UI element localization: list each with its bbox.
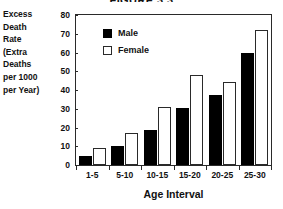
legend: Male Female: [103, 26, 149, 60]
bar-group: [176, 15, 203, 165]
y-axis-label-line: Rate: [3, 33, 51, 46]
y-axis-tick-label: 20: [50, 123, 70, 133]
y-axis-tick-label: 50: [50, 66, 70, 76]
bar-female-20-25[interactable]: [223, 82, 236, 165]
bar-group: [209, 15, 236, 165]
y-axis-tick-label: 80: [50, 10, 70, 20]
x-axis-tick-mark: [109, 166, 110, 170]
y-axis-label-line: Death: [3, 21, 51, 34]
bar-male-20-25[interactable]: [209, 95, 222, 165]
y-axis-tick-label: 60: [50, 48, 70, 58]
legend-swatch-male-icon: [103, 29, 112, 38]
bar-female-5-10[interactable]: [125, 133, 138, 165]
x-axis-tick-mark: [206, 166, 207, 170]
bar-male-10-15[interactable]: [144, 130, 157, 165]
x-axis-tick-label: 15-20: [179, 170, 201, 180]
legend-label-female: Female: [118, 45, 149, 55]
y-axis-label-line: per 1000: [3, 71, 51, 84]
y-axis-tick-label: 0: [50, 160, 70, 170]
y-axis-tick-label: 10: [50, 141, 70, 151]
bar-female-1-5[interactable]: [93, 148, 106, 165]
x-axis-tick-mark: [141, 166, 142, 170]
x-axis-tick-mark: [239, 166, 240, 170]
x-axis-tick-label: 5-10: [116, 170, 133, 180]
bar-female-10-15[interactable]: [158, 107, 171, 165]
y-axis-label-line: (Extra: [3, 46, 51, 59]
x-axis-tick-label: 10-15: [146, 170, 168, 180]
bar-female-25-30[interactable]: [255, 30, 268, 165]
bar-male-25-30[interactable]: [241, 53, 254, 166]
y-axis-label-line: per Year): [3, 84, 51, 97]
x-axis-label: Age Interval: [75, 188, 272, 200]
bar-male-1-5[interactable]: [79, 156, 92, 165]
x-axis-tick-mark: [76, 166, 77, 170]
y-axis-label-line: Excess: [3, 8, 51, 21]
x-axis-tick-label: 20-25: [211, 170, 233, 180]
x-axis-tick-label: 1-5: [86, 170, 98, 180]
y-axis-label-line: Deaths: [3, 58, 51, 71]
bar-male-5-10[interactable]: [111, 146, 124, 165]
bar-group: [79, 15, 106, 165]
x-axis-tick-mark: [271, 166, 272, 170]
legend-item-female[interactable]: Female: [103, 43, 149, 57]
y-axis-label: Excess Death Rate (Extra Deaths per 1000…: [3, 8, 51, 96]
bar-male-15-20[interactable]: [176, 108, 189, 165]
figure-title: FIGURE 3.3: [0, 0, 283, 2]
y-axis-tick-label: 70: [50, 29, 70, 39]
figure-container: FIGURE 3.3 Excess Death Rate (Extra Deat…: [0, 0, 283, 209]
y-axis-tick-label: 40: [50, 85, 70, 95]
legend-label-male: Male: [118, 28, 138, 38]
y-axis-tick-label: 30: [50, 104, 70, 114]
x-axis-tick-label: 25-30: [244, 170, 266, 180]
bar-female-15-20[interactable]: [190, 75, 203, 165]
legend-swatch-female-icon: [103, 46, 112, 55]
x-axis-tick-mark: [174, 166, 175, 170]
legend-item-male[interactable]: Male: [103, 26, 149, 40]
bar-group: [241, 15, 268, 165]
